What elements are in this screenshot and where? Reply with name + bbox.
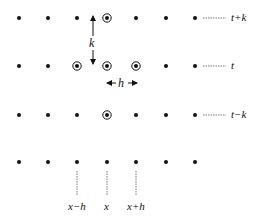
grid-canvas xyxy=(0,0,258,221)
grid-point xyxy=(193,64,197,68)
grid-point xyxy=(134,113,138,117)
k-label: k xyxy=(89,37,94,49)
h-label: h xyxy=(118,77,124,89)
grid-point xyxy=(105,16,109,20)
x-label-x: x xyxy=(104,201,109,212)
grid-point xyxy=(17,160,21,164)
grid-point xyxy=(75,64,79,68)
row-label-t-minus-k: t−k xyxy=(231,109,246,120)
grid-point xyxy=(134,64,138,68)
grid-point xyxy=(46,16,50,20)
grid-point xyxy=(193,113,197,117)
grid-point xyxy=(134,160,138,164)
grid-point xyxy=(164,160,168,164)
grid-point xyxy=(105,64,109,68)
grid-point xyxy=(75,16,79,20)
grid-point xyxy=(46,160,50,164)
grid-point xyxy=(193,160,197,164)
grid-point xyxy=(193,16,197,20)
grid-point xyxy=(46,113,50,117)
grid-point xyxy=(164,113,168,117)
grid-diagram: k h t+k t t−k x−h x x+h xyxy=(0,0,258,221)
grid-point xyxy=(17,16,21,20)
grid-point xyxy=(17,64,21,68)
row-label-t-plus-k: t+k xyxy=(231,12,246,23)
grid-point xyxy=(134,16,138,20)
row-label-t: t xyxy=(231,60,234,71)
grid-point xyxy=(164,16,168,20)
x-label-x-plus-h: x+h xyxy=(127,201,145,212)
grid-point xyxy=(17,113,21,117)
grid-point xyxy=(105,160,109,164)
x-label-x-minus-h: x−h xyxy=(68,201,86,212)
grid-point xyxy=(46,64,50,68)
grid-point xyxy=(164,64,168,68)
grid-point xyxy=(105,113,109,117)
grid-point xyxy=(75,113,79,117)
grid-point xyxy=(75,160,79,164)
